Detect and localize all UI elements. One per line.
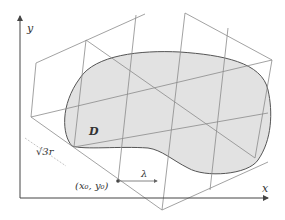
lambda-label: λ bbox=[140, 168, 147, 179]
x-axis-label: x bbox=[262, 182, 269, 195]
y-axis-label: y bbox=[26, 22, 34, 35]
region-d bbox=[65, 52, 271, 174]
spacing-label: √3r bbox=[36, 146, 55, 157]
region-d-label: D bbox=[88, 125, 99, 138]
origin-label: (x₀, y₀) bbox=[75, 180, 109, 191]
lattice-diagram: y x √3r D (x₀, y₀) λ bbox=[0, 0, 285, 220]
